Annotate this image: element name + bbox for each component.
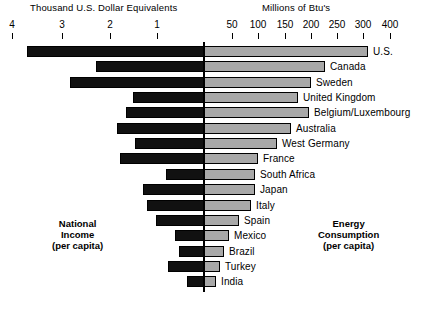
bar-row: Turkey	[0, 261, 422, 272]
country-label: France	[263, 153, 295, 164]
right-tick-label-400: 400	[382, 19, 399, 30]
center-axis-line	[203, 42, 205, 292]
bar-row: Canada	[0, 61, 422, 72]
left-tick-label-3: 3	[59, 19, 65, 30]
right-tick-label-200: 200	[303, 19, 320, 30]
country-label: Sweden	[316, 77, 353, 88]
left-tick-mark-2	[110, 33, 111, 39]
income-bar	[166, 169, 204, 180]
bar-row: Sweden	[0, 77, 422, 88]
bar-row: West Germany	[0, 138, 422, 149]
right-tick-mark-50	[232, 33, 233, 39]
income-bar	[187, 276, 204, 287]
energy-bar	[204, 246, 224, 257]
country-label: Mexico	[234, 230, 266, 241]
energy-bar	[204, 215, 239, 226]
income-bar	[117, 123, 204, 134]
left-tick-label-1: 1	[154, 19, 160, 30]
right-axis-title: Millions of Btu's	[262, 2, 330, 13]
country-label: South Africa	[260, 169, 315, 180]
left-tick-mark-3	[62, 33, 63, 39]
energy-bar	[204, 276, 216, 287]
energy-bar	[204, 77, 311, 88]
income-bar	[126, 107, 204, 118]
bar-row: United Kingdom	[0, 92, 422, 103]
income-bar	[175, 230, 204, 241]
right-tick-mark-100	[258, 33, 259, 39]
right-tick-label-150: 150	[277, 19, 294, 30]
country-label: Spain	[244, 215, 270, 226]
income-bar	[70, 77, 204, 88]
left-series-caption: National Income (per capita)	[52, 218, 103, 251]
income-bar	[143, 184, 204, 195]
country-label: Turkey	[225, 261, 256, 272]
right-tick-mark-150	[285, 33, 286, 39]
plot-area: U.S.CanadaSwedenUnited KingdomBelgium/Lu…	[0, 42, 422, 300]
country-label: Canada	[330, 61, 366, 72]
right-tick-label-300: 300	[355, 19, 372, 30]
left-tick-mark-1	[157, 33, 158, 39]
bar-row: Australia	[0, 123, 422, 134]
energy-bar	[204, 153, 258, 164]
country-label: Italy	[256, 200, 275, 211]
left-tick-label-4: 4	[9, 19, 15, 30]
country-label: Belgium/Luxembourg	[314, 107, 410, 118]
right-tick-label-100: 100	[250, 19, 267, 30]
country-label: Australia	[296, 123, 336, 134]
left-axis-title: Thousand U.S. Dollar Equivalents	[30, 2, 177, 13]
left-tick-mark-4	[12, 33, 13, 39]
energy-bar	[204, 184, 255, 195]
left-caption-line-3: (per capita)	[52, 240, 103, 251]
bar-row: U.S.	[0, 46, 422, 57]
income-bar	[133, 92, 204, 103]
right-tick-label-50: 50	[226, 19, 237, 30]
chart-container: Thousand U.S. Dollar Equivalents Million…	[0, 0, 422, 310]
country-label: Brazil	[229, 246, 255, 257]
right-tick-mark-400	[390, 33, 391, 39]
income-bar	[156, 215, 204, 226]
country-label: India	[221, 276, 243, 287]
bar-row: India	[0, 276, 422, 287]
energy-bar	[204, 46, 368, 57]
energy-bar	[204, 261, 220, 272]
left-tick-label-2: 2	[107, 19, 113, 30]
country-label: Japan	[260, 184, 288, 195]
right-tick-mark-250	[337, 33, 338, 39]
right-tick-mark-200	[311, 33, 312, 39]
country-label: West Germany	[282, 138, 350, 149]
right-tick-label-250: 250	[329, 19, 346, 30]
income-bar	[96, 61, 204, 72]
income-bar	[147, 200, 204, 211]
bar-row: France	[0, 153, 422, 164]
left-caption-line-1: National	[52, 218, 103, 229]
energy-bar	[204, 138, 277, 149]
income-bar	[135, 138, 204, 149]
right-caption-line-3: (per capita)	[318, 240, 379, 251]
income-bar	[179, 246, 204, 257]
income-bar	[120, 153, 204, 164]
right-tick-mark-300	[363, 33, 364, 39]
bar-row: South Africa	[0, 169, 422, 180]
bar-row: Japan	[0, 184, 422, 195]
country-label: U.S.	[373, 46, 393, 57]
energy-bar	[204, 200, 251, 211]
energy-bar	[204, 107, 309, 118]
bar-row: Belgium/Luxembourg	[0, 107, 422, 118]
bar-row: Italy	[0, 200, 422, 211]
energy-bar	[204, 169, 255, 180]
country-label: United Kingdom	[303, 92, 376, 103]
right-series-caption: Energy Consumption (per capita)	[318, 218, 379, 251]
income-bar	[27, 46, 204, 57]
energy-bar	[204, 61, 325, 72]
right-caption-line-1: Energy	[318, 218, 379, 229]
energy-bar	[204, 230, 229, 241]
left-caption-line-2: Income	[52, 229, 103, 240]
energy-bar	[204, 92, 298, 103]
energy-bar	[204, 123, 291, 134]
income-bar	[168, 261, 204, 272]
right-caption-line-2: Consumption	[318, 229, 379, 240]
